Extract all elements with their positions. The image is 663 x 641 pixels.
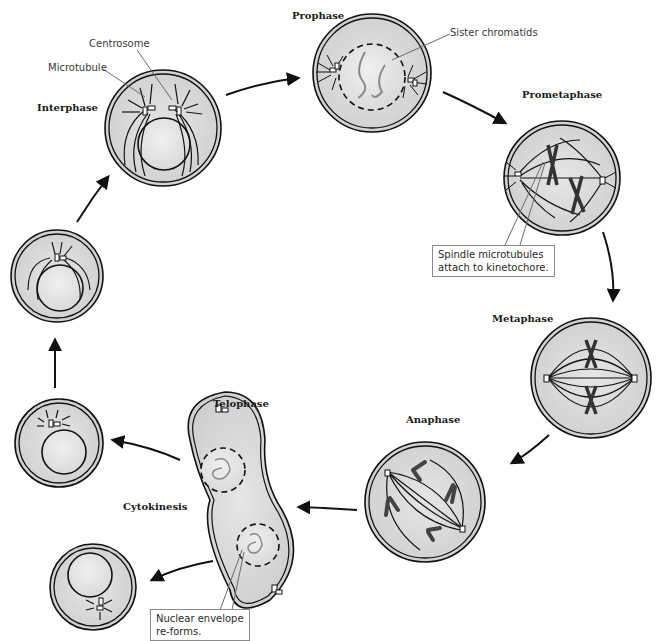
callout-nuclear-line2: re-forms. <box>156 625 244 638</box>
phase-label-cytokinesis: Cytokinesis <box>123 501 187 512</box>
callout-spindle-microtubules: Spindle microtubules attach to kinetocho… <box>432 245 555 277</box>
phase-label-prometaphase: Prometaphase <box>522 89 602 100</box>
phase-label-interphase: Interphase <box>37 102 98 113</box>
callout-microtubule: Microtubule <box>48 62 107 73</box>
callout-spindle-line1: Spindle microtubules <box>438 248 549 261</box>
callout-spindle-line2: attach to kinetochore. <box>438 261 549 274</box>
cell-anaphase <box>365 442 485 562</box>
phase-label-metaphase: Metaphase <box>492 313 553 324</box>
cell-prophase <box>313 14 431 132</box>
cell-prometaphase <box>504 121 620 245</box>
arrow-g1-to-interphase <box>77 177 108 222</box>
arrow-interphase-to-prophase <box>226 78 298 95</box>
phase-label-prophase: Prophase <box>292 10 344 21</box>
callout-sister-chromatids: Sister chromatids <box>450 27 538 38</box>
arrow-anaphase-to-telophase <box>299 507 357 510</box>
cell-metaphase <box>531 318 651 438</box>
cell-telophase <box>188 392 293 610</box>
centriole <box>143 107 147 115</box>
cell-daughter-upper <box>15 399 103 487</box>
callout-nuclear-line1: Nuclear envelope <box>156 612 244 625</box>
phase-label-telophase: Telophase <box>213 398 269 409</box>
cell-g1-early <box>11 230 103 322</box>
arrow-telophase-to-daughter-lower <box>152 561 213 580</box>
arrow-prometaphase-to-metaphase <box>603 232 613 300</box>
cell-daughter-lower <box>50 544 136 630</box>
arrow-prophase-to-prometaphase <box>443 92 505 123</box>
callout-centrosome: Centrosome <box>89 38 150 49</box>
arrow-metaphase-to-anaphase <box>512 435 549 463</box>
callout-nuclear-envelope: Nuclear envelope re-forms. <box>150 609 250 641</box>
arrow-telophase-to-daughter-upper <box>113 440 180 460</box>
phase-label-anaphase: Anaphase <box>406 414 460 425</box>
